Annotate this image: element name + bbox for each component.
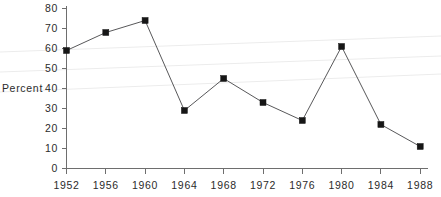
data-point-1968 <box>221 76 227 82</box>
y-axis: 80 70 60 50 40 30 20 10 0 Percent <box>2 2 67 174</box>
data-point-1984 <box>378 122 384 128</box>
x-tick-label-1956: 1956 <box>93 179 119 191</box>
x-tick-label-1980: 1980 <box>329 179 355 191</box>
series-line-percent <box>67 21 421 147</box>
data-point-1964 <box>181 108 187 114</box>
y-tick-label-20: 20 <box>45 122 58 134</box>
chart-canvas: 80 70 60 50 40 30 20 10 0 Percent 1952 1… <box>0 0 441 197</box>
data-point-1980 <box>339 44 345 50</box>
y-tick-label-40: 40 <box>45 82 58 94</box>
data-series-percent <box>64 18 424 150</box>
y-tick-label-50: 50 <box>45 62 58 74</box>
x-tick-label-1964: 1964 <box>171 179 197 191</box>
series-markers-percent <box>64 18 424 150</box>
x-tick-label-1952: 1952 <box>53 179 79 191</box>
y-tick-label-70: 70 <box>45 22 58 34</box>
y-tick-label-60: 60 <box>45 42 58 54</box>
data-point-1972 <box>260 100 266 106</box>
y-tick-label-0: 0 <box>51 162 58 174</box>
x-tick-label-1984: 1984 <box>368 179 394 191</box>
line-chart: 80 70 60 50 40 30 20 10 0 Percent 1952 1… <box>0 0 441 197</box>
x-axis: 1952 1956 1960 1964 1968 1972 1976 1980 … <box>53 169 433 192</box>
x-tick-label-1972: 1972 <box>250 179 276 191</box>
y-tick-label-30: 30 <box>45 102 58 114</box>
data-point-1960 <box>142 18 148 24</box>
x-tick-label-1968: 1968 <box>211 179 237 191</box>
y-tick-label-80: 80 <box>45 2 58 14</box>
data-point-1976 <box>299 118 305 124</box>
x-tick-label-1988: 1988 <box>407 179 433 191</box>
data-point-1952 <box>64 48 70 54</box>
data-point-1988 <box>417 144 423 150</box>
x-tick-label-1976: 1976 <box>289 179 315 191</box>
data-point-1956 <box>103 30 109 36</box>
x-tick-label-1960: 1960 <box>132 179 158 191</box>
y-axis-title: Percent <box>2 82 43 94</box>
y-tick-label-10: 10 <box>45 142 58 154</box>
